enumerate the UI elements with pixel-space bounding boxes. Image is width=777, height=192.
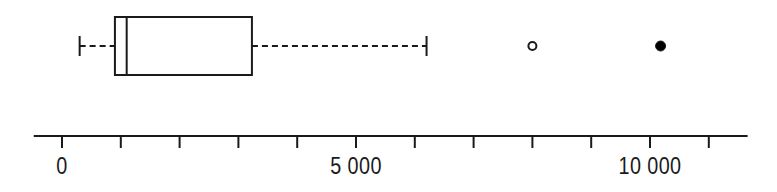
- outlier-marker-1: [528, 42, 536, 50]
- axis-tick-marks: [62, 136, 709, 148]
- axis-tick-label-0: 0: [56, 155, 67, 178]
- box-group: [115, 17, 252, 75]
- axis-tick-label-5000: 5 000: [330, 155, 382, 178]
- x-axis: [34, 136, 748, 148]
- outlier-marker-2: [656, 41, 666, 51]
- outlier-group: [528, 41, 665, 51]
- boxplot-figure: 05 00010 000: [0, 0, 777, 192]
- axis-tick-label-10000: 10 000: [618, 155, 681, 178]
- interquartile-box: [115, 17, 252, 75]
